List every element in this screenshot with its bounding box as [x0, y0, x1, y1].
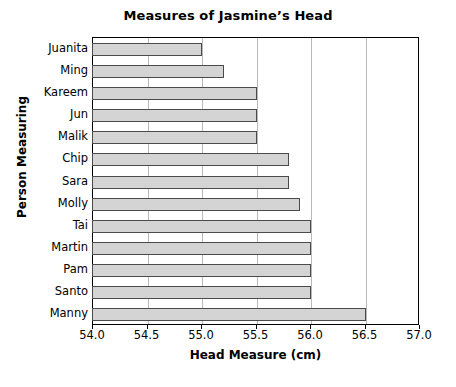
bar [92, 109, 257, 122]
x-axis-tick-label: 56.0 [280, 328, 340, 342]
y-axis-tick-labels: JuanitaMingKareemJunMalikChipSaraMollyTa… [0, 37, 88, 325]
y-axis-tick-label: Manny [2, 307, 88, 320]
bar [92, 264, 311, 277]
chart-title: Measures of Jasmine’s Head [0, 8, 456, 23]
bar [92, 198, 300, 211]
x-axis-tick-label: 54.0 [62, 328, 122, 342]
plot-area [92, 37, 419, 325]
bar [92, 176, 289, 189]
bar [92, 131, 257, 144]
y-axis-tick-label: Pam [2, 263, 88, 276]
y-axis-tick-label: Martin [2, 241, 88, 254]
x-axis-tick-label: 56.5 [335, 328, 395, 342]
bar [92, 43, 202, 56]
bar [92, 87, 257, 100]
gridline [366, 38, 367, 324]
y-axis-title: Person Measuring [15, 87, 29, 227]
bar [92, 308, 366, 321]
x-axis-tick-label: 55.0 [171, 328, 231, 342]
x-axis-title: Head Measure (cm) [92, 348, 419, 362]
bar [92, 65, 224, 78]
bar [92, 286, 311, 299]
bar [92, 242, 311, 255]
y-axis-tick-label: Juanita [2, 42, 88, 55]
bar [92, 153, 289, 166]
x-axis-tick-label: 57.0 [389, 328, 449, 342]
y-axis-tick-label: Santo [2, 285, 88, 298]
gridline [311, 38, 312, 324]
y-axis-tick-label: Ming [2, 64, 88, 77]
chart-figure: Measures of Jasmine’s Head JuanitaMingKa… [0, 0, 456, 387]
x-axis-tick-label: 54.5 [117, 328, 177, 342]
x-axis-tick-label: 55.5 [226, 328, 286, 342]
bar [92, 220, 311, 233]
